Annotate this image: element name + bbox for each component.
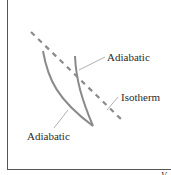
label-x-axis: V <box>161 170 168 175</box>
leader-adiabatic-upper <box>79 57 105 70</box>
adiabatic-curve-lower <box>43 51 93 126</box>
leader-isotherm <box>107 97 118 110</box>
pv-diagram: Adiabatic Isotherm Adiabatic V <box>0 0 171 175</box>
label-isotherm: Isotherm <box>121 91 161 103</box>
label-adiabatic-upper: Adiabatic <box>107 51 150 63</box>
leader-adiabatic-lower <box>54 110 68 128</box>
label-adiabatic-lower: Adiabatic <box>27 130 70 142</box>
adiabatic-curve-upper <box>75 56 93 126</box>
